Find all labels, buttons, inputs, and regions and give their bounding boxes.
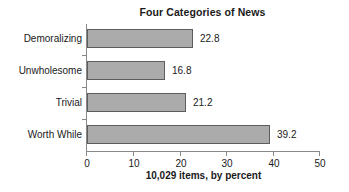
x-tick-label-40: 40 bbox=[268, 158, 279, 169]
y-axis-tick bbox=[82, 55, 87, 56]
bar-chart: Four Categories of News 22.8 16.8 21.2 3… bbox=[0, 0, 349, 192]
bar-value-trivial: 21.2 bbox=[193, 93, 212, 112]
x-tick-label-20: 20 bbox=[175, 158, 186, 169]
category-label-demoralizing: Demoralizing bbox=[0, 29, 82, 48]
bar-value-unwholesome: 16.8 bbox=[172, 61, 191, 80]
x-axis-line bbox=[86, 151, 320, 152]
bar-demoralizing bbox=[87, 29, 193, 48]
category-label-worth-while: Worth While bbox=[0, 125, 82, 144]
plot-area: 22.8 16.8 21.2 39.2 0 10 20 30 40 50 bbox=[87, 24, 320, 151]
bar-worth-while bbox=[87, 125, 270, 144]
bar-value-demoralizing: 22.8 bbox=[200, 29, 219, 48]
category-label-trivial: Trivial bbox=[0, 93, 82, 112]
x-axis-tick bbox=[133, 151, 134, 156]
x-tick-label-30: 30 bbox=[221, 158, 232, 169]
y-axis-tick bbox=[82, 87, 87, 88]
x-tick-label-0: 0 bbox=[84, 158, 90, 169]
bar-trivial bbox=[87, 93, 186, 112]
x-axis-tick bbox=[180, 151, 181, 156]
x-tick-label-10: 10 bbox=[128, 158, 139, 169]
x-axis-tick bbox=[319, 151, 320, 156]
bar-value-worth-while: 39.2 bbox=[277, 125, 296, 144]
x-axis-tick bbox=[273, 151, 274, 156]
category-label-unwholesome: Unwholesome bbox=[0, 61, 82, 80]
x-axis-title: 10,029 items, by percent bbox=[87, 170, 320, 181]
bar-unwholesome bbox=[87, 61, 165, 80]
x-axis-tick bbox=[226, 151, 227, 156]
x-axis-tick bbox=[86, 151, 87, 156]
x-tick-label-50: 50 bbox=[314, 158, 325, 169]
y-axis-tick bbox=[82, 119, 87, 120]
chart-title: Four Categories of News bbox=[0, 6, 349, 18]
